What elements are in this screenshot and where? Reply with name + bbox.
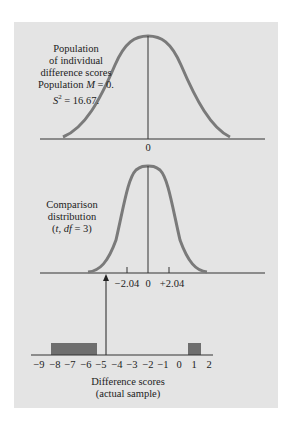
label-line: Population [26,43,126,55]
comparison-label: Comparison distribution (t, df = 3) [40,199,104,235]
bottom-tick-label: −7 [64,359,75,370]
label-line: S2 = 16.67. [26,91,126,107]
bottom-tick-label: −8 [49,359,60,370]
label-line: of individual [26,55,126,67]
difference-scores-caption: Difference scores (actual sample) [80,376,176,400]
bottom-tick-label: −4 [111,359,122,370]
bottom-tick-label: 2 [206,359,211,370]
population-label: Population of individual difference scor… [26,43,126,107]
bottom-tick-label: −9 [33,359,44,370]
bottom-tick-label: −6 [80,359,91,370]
bottom-tick-label: −1 [157,359,168,370]
middle-tick-label: 0 [145,278,150,289]
arrow-head-icon [103,274,109,281]
label-line: Comparison [40,199,104,211]
histogram-bar-right [188,343,201,355]
middle-tick-label: −2.04 [115,278,139,289]
label-line: difference scores [26,67,126,79]
bottom-tick-label: −5 [95,359,106,370]
label-line: Population M = 0. [26,79,126,91]
label-line: (t, df = 3) [40,223,104,235]
top-axis-zero: 0 [145,142,150,153]
label-line: distribution [40,211,104,223]
caption-line: (actual sample) [80,388,176,400]
bottom-tick-label: 1 [191,359,196,370]
bottom-tick-label: −3 [126,359,137,370]
histogram-bar-left [51,343,97,355]
bottom-tick-label: −2 [142,359,153,370]
middle-tick-label: +2.04 [160,278,184,289]
caption-line: Difference scores [80,376,176,388]
bottom-tick-label: 0 [176,359,181,370]
